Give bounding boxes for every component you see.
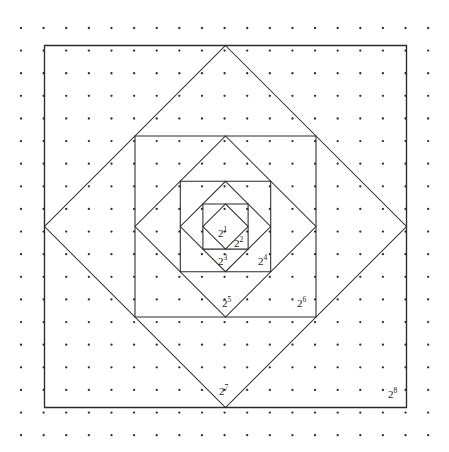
grid-dot bbox=[133, 27, 135, 29]
grid-dot bbox=[269, 321, 271, 323]
grid-dot bbox=[427, 276, 429, 278]
grid-dot bbox=[382, 208, 384, 210]
grid-dot bbox=[291, 276, 293, 278]
grid-dot bbox=[291, 117, 293, 119]
grid-dot bbox=[314, 344, 316, 346]
power-exponent: 1 bbox=[224, 225, 228, 234]
grid-dot bbox=[133, 411, 135, 413]
grid-dot bbox=[269, 389, 271, 391]
grid-dot bbox=[382, 411, 384, 413]
grid-dot bbox=[291, 298, 293, 300]
grid-dot bbox=[201, 163, 203, 165]
grid-dot bbox=[65, 95, 67, 97]
grid-dot bbox=[337, 117, 339, 119]
grid-dot bbox=[246, 434, 248, 436]
grid-dot bbox=[359, 208, 361, 210]
grid-dot bbox=[314, 389, 316, 391]
grid-dot bbox=[359, 434, 361, 436]
grid-dot bbox=[156, 27, 158, 29]
power-exponent: 3 bbox=[224, 253, 228, 262]
grid-dot bbox=[88, 321, 90, 323]
power-label-2-3: 23 bbox=[218, 256, 227, 267]
grid-dot bbox=[133, 95, 135, 97]
grid-dot bbox=[291, 208, 293, 210]
grid-dot bbox=[359, 27, 361, 29]
grid-dot bbox=[88, 208, 90, 210]
grid-dot bbox=[359, 49, 361, 51]
grid-dot bbox=[201, 411, 203, 413]
grid-dot bbox=[291, 230, 293, 232]
grid-dot bbox=[42, 434, 44, 436]
grid-dot bbox=[382, 185, 384, 187]
grid-dot bbox=[20, 72, 22, 74]
grid-dot bbox=[427, 344, 429, 346]
grid-dot bbox=[20, 117, 22, 119]
grid-dot bbox=[201, 344, 203, 346]
grid-dot bbox=[291, 140, 293, 142]
grid-dot bbox=[201, 72, 203, 74]
grid-dot bbox=[20, 185, 22, 187]
grid-dot bbox=[110, 117, 112, 119]
grid-dot bbox=[269, 95, 271, 97]
grid-dot bbox=[178, 27, 180, 29]
grid-dot bbox=[88, 434, 90, 436]
grid-dot bbox=[337, 208, 339, 210]
grid-dot bbox=[65, 140, 67, 142]
grid-dot bbox=[156, 276, 158, 278]
grid-dot bbox=[246, 344, 248, 346]
grid-dot bbox=[156, 140, 158, 142]
grid-dot bbox=[178, 49, 180, 51]
power-label-2-2: 22 bbox=[234, 238, 243, 249]
grid-dot bbox=[269, 49, 271, 51]
grid-dot bbox=[404, 27, 406, 29]
grid-dot bbox=[178, 72, 180, 74]
grid-dot bbox=[382, 253, 384, 255]
grid-dot bbox=[291, 185, 293, 187]
grid-dot bbox=[269, 344, 271, 346]
grid-dot bbox=[359, 321, 361, 323]
grid-dot bbox=[382, 72, 384, 74]
grid-dot bbox=[65, 185, 67, 187]
grid-dot bbox=[110, 49, 112, 51]
grid-dot bbox=[359, 230, 361, 232]
grid-dot bbox=[223, 321, 225, 323]
grid-dot bbox=[20, 321, 22, 323]
grid-dot bbox=[178, 276, 180, 278]
grid-dot bbox=[291, 49, 293, 51]
grid-dot bbox=[133, 434, 135, 436]
grid-dot bbox=[201, 49, 203, 51]
grid-dot bbox=[201, 276, 203, 278]
grid-dot bbox=[337, 72, 339, 74]
power-exponent: 2 bbox=[240, 235, 244, 244]
grid-dot bbox=[382, 366, 384, 368]
grid-dot bbox=[246, 298, 248, 300]
grid-dot bbox=[156, 208, 158, 210]
grid-dot bbox=[20, 389, 22, 391]
grid-dot bbox=[223, 140, 225, 142]
grid-dot bbox=[156, 411, 158, 413]
grid-dot bbox=[223, 95, 225, 97]
grid-dot bbox=[20, 208, 22, 210]
grid-dot bbox=[65, 276, 67, 278]
grid-dot bbox=[88, 230, 90, 232]
grid-dot bbox=[133, 72, 135, 74]
grid-dot bbox=[110, 140, 112, 142]
grid-dot bbox=[156, 163, 158, 165]
grid-dot bbox=[20, 434, 22, 436]
grid-dot bbox=[110, 298, 112, 300]
grid-dot bbox=[337, 253, 339, 255]
grid-dot bbox=[223, 434, 225, 436]
grid-dot bbox=[88, 185, 90, 187]
grid-dot bbox=[110, 321, 112, 323]
grid-dot bbox=[269, 434, 271, 436]
grid-dot bbox=[427, 434, 429, 436]
grid-dot bbox=[223, 49, 225, 51]
grid-dot bbox=[88, 163, 90, 165]
grid-dot bbox=[88, 95, 90, 97]
grid-dot bbox=[337, 298, 339, 300]
power-exponent: 6 bbox=[303, 295, 307, 304]
grid-dot bbox=[291, 321, 293, 323]
power-exponent: 7 bbox=[225, 383, 229, 392]
grid-dot bbox=[178, 434, 180, 436]
grid-dot bbox=[359, 253, 361, 255]
